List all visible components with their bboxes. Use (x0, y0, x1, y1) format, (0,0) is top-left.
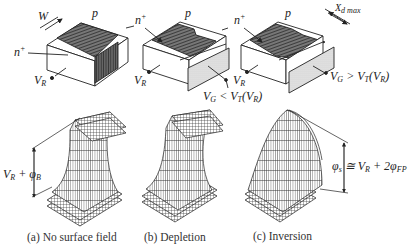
vr-label-c: VR (233, 74, 245, 88)
potential-plot-b (142, 110, 223, 222)
p-region-label-a: p (92, 7, 98, 19)
n-plus-label-a: n+ (14, 45, 25, 58)
n-plus-label-c: n+ (234, 13, 245, 26)
caption-a: (a) No surface field (27, 231, 117, 243)
p-region-label-c: p (285, 7, 291, 19)
gate-condition-c: VG > VT(VR) (330, 70, 389, 84)
caption-c: (c) Inversion (253, 230, 312, 242)
width-label: W (38, 10, 48, 22)
p-region-label-b: p (185, 7, 191, 19)
mos-gated-diode-figure (0, 0, 418, 249)
n-plus-label-b: n+ (135, 13, 146, 26)
plot-c-annotation: φs ≅ VR + 2φFP (332, 160, 407, 174)
potential-plot-a (32, 112, 126, 226)
depletion-width-label: Xd max (335, 3, 360, 15)
plot-a-annotation: VR + φB (3, 168, 41, 182)
vr-label-a: VR (34, 74, 46, 88)
caption-b: (b) Depletion (144, 231, 206, 243)
gate-condition-b: VG < VT(VR) (203, 90, 262, 104)
vr-label-b: VR (134, 74, 146, 88)
device-b (143, 22, 229, 91)
